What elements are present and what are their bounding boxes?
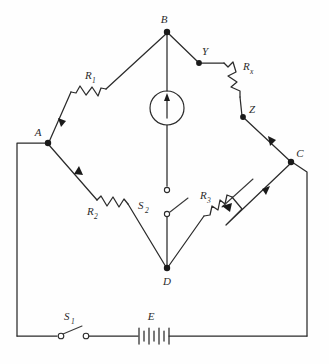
- wire-right-rail-to-c: [292, 162, 307, 336]
- component-label-rx-main: R: [242, 60, 250, 72]
- branch-d-to-c: [168, 164, 290, 267]
- branch-z-to-c: [244, 118, 290, 161]
- arrow-wiper-r3-head: [222, 203, 232, 212]
- wire-z-c: [244, 118, 290, 161]
- wire-b-r1: [106, 33, 167, 89]
- component-label-rx-sub: x: [249, 67, 254, 76]
- node-label-z: Z: [249, 103, 256, 115]
- component-label-r1: R 1: [84, 69, 96, 85]
- branch-b-to-d-galvanometer: [150, 34, 188, 266]
- component-label-r2: R 2: [86, 205, 98, 221]
- node-dot-y: [196, 60, 202, 66]
- node-label-b: B: [161, 13, 168, 25]
- wire-a-left-rail: [17, 143, 47, 336]
- wire-rx-z: [240, 97, 242, 116]
- resistor-r2-body: [97, 196, 128, 207]
- component-label-s1-sub: 1: [71, 317, 75, 326]
- component-label-r2-sub: 2: [94, 212, 98, 221]
- component-label-s1-main: S: [64, 310, 70, 322]
- wire-r1-a: [49, 92, 71, 142]
- node-dot-a: [45, 140, 51, 146]
- battery-symbol: [139, 328, 169, 344]
- circuit-diagram-figure: B A C D Y Z R 1 R 2 R 3 R x S 2 S 1 E: [0, 0, 329, 364]
- node-dot-c: [288, 159, 294, 165]
- wire-d-r3: [168, 216, 204, 267]
- switch-s2-terminal-bottom[interactable]: [164, 211, 169, 216]
- switch-s1-lever[interactable]: [63, 326, 82, 334]
- node-label-a: A: [34, 126, 42, 138]
- component-label-r1-sub: 1: [92, 76, 96, 85]
- circuit-canvas: B A C D Y Z R 1 R 2 R 3 R x S 2 S 1 E: [0, 0, 329, 364]
- component-label-e: E: [147, 310, 155, 322]
- component-label-s2-sub: 2: [145, 206, 149, 215]
- node-dot-d: [164, 265, 170, 271]
- component-label-r3: R 3: [199, 189, 211, 205]
- component-label-rx: R x: [242, 60, 254, 76]
- component-label-s2: S 2: [138, 199, 149, 215]
- component-label-r3-main: R: [199, 189, 207, 201]
- arrow-b-a-head: [58, 118, 66, 127]
- node-label-c: C: [296, 147, 304, 159]
- node-dot-z: [240, 114, 246, 120]
- switch-s1-terminal-right[interactable]: [83, 333, 89, 339]
- node-dot-b: [164, 29, 170, 35]
- node-label-d: D: [162, 275, 171, 287]
- arrow-galvanometer-head: [164, 93, 170, 101]
- switch-s2-terminal-top[interactable]: [164, 187, 169, 192]
- resistor-rx-body: [224, 62, 240, 97]
- component-label-r3-sub: 3: [206, 196, 211, 205]
- component-label-s1: S 1: [64, 310, 75, 326]
- node-label-y: Y: [202, 45, 210, 57]
- wire-a-r2: [49, 145, 97, 200]
- arrow-a-d-head: [74, 166, 83, 175]
- wire-b-y: [168, 33, 198, 62]
- resistor-r1-body: [71, 86, 106, 96]
- outer-supply-loop: [17, 143, 307, 344]
- branch-b-to-a: [49, 33, 167, 142]
- component-label-s2-main: S: [138, 199, 144, 211]
- switch-s2-lever[interactable]: [170, 198, 188, 212]
- component-label-r2-main: R: [86, 205, 94, 217]
- component-label-r1-main: R: [84, 69, 92, 81]
